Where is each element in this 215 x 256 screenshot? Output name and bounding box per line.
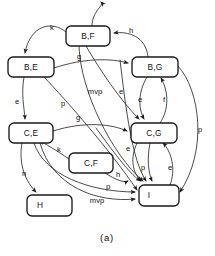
node-bf[interactable]: B,F: [66, 26, 110, 46]
edge-label-cf-i: h: [116, 170, 120, 179]
edge-label-cf-ce: k: [57, 145, 61, 154]
edge-self-loop-bf: [92, 2, 102, 26]
edge-bf-be: k: [25, 23, 66, 53]
edge-label-bg-i: p: [198, 125, 202, 134]
edge-be-ce: e: [15, 77, 25, 119]
figure-canvas: k h g e p e mvp: [0, 0, 215, 256]
edge-label-bf-cg: e: [119, 87, 123, 96]
edge-label-ce-h: n: [22, 169, 26, 178]
edge-label-cg-i-p: p: [141, 163, 145, 172]
node-label-bf: B,F: [81, 31, 95, 41]
edge-label-bg-cg: e: [138, 95, 142, 104]
node-label-cf: C,F: [84, 158, 98, 168]
edge-i-cg: e: [163, 143, 173, 185]
node-h[interactable]: H: [27, 195, 72, 216]
edge-label-be-ce: e: [15, 97, 19, 106]
node-i[interactable]: I: [139, 185, 179, 206]
node-be[interactable]: B,E: [8, 57, 54, 77]
node-cg[interactable]: C,G: [131, 123, 177, 143]
edge-label-ce-i-p: p: [106, 182, 110, 191]
node-label-ce: C,E: [24, 128, 39, 138]
edge-label-ce-cg: g: [76, 113, 80, 122]
edge-label-bf-i: mvp: [88, 87, 102, 96]
edge-label-bf-be: k: [50, 23, 54, 32]
edge-bg-i: p: [178, 66, 202, 192]
edge-label-be-i: p: [61, 99, 65, 108]
edge-label-bg-bf: h: [129, 26, 133, 35]
node-label-bg: B,G: [148, 62, 163, 72]
edge-cf-ce: k: [40, 141, 69, 159]
node-ce[interactable]: C,E: [9, 123, 53, 143]
edge-bg-bf: h: [114, 26, 148, 57]
node-label-h: H: [37, 200, 43, 210]
edge-label-cg-i-e: e: [126, 144, 130, 153]
figure-caption: (a): [100, 232, 114, 243]
node-label-be: B,E: [24, 62, 38, 72]
edge-ce-h: n: [21, 143, 36, 192]
edge-label-ce-i-mvp: mvp: [90, 196, 104, 205]
edge-cg-bg: f: [160, 78, 167, 123]
node-cf[interactable]: C,F: [69, 153, 113, 173]
state-diagram: k h g e p e mvp: [0, 0, 215, 256]
edge-label-i-cg: e: [168, 163, 172, 172]
node-label-cg: C,G: [146, 128, 161, 138]
node-bg[interactable]: B,G: [132, 57, 178, 77]
node-label-i: I: [148, 190, 151, 200]
edge-bg-cg: e: [138, 77, 147, 119]
edge-label-cg-bg: f: [163, 95, 166, 104]
